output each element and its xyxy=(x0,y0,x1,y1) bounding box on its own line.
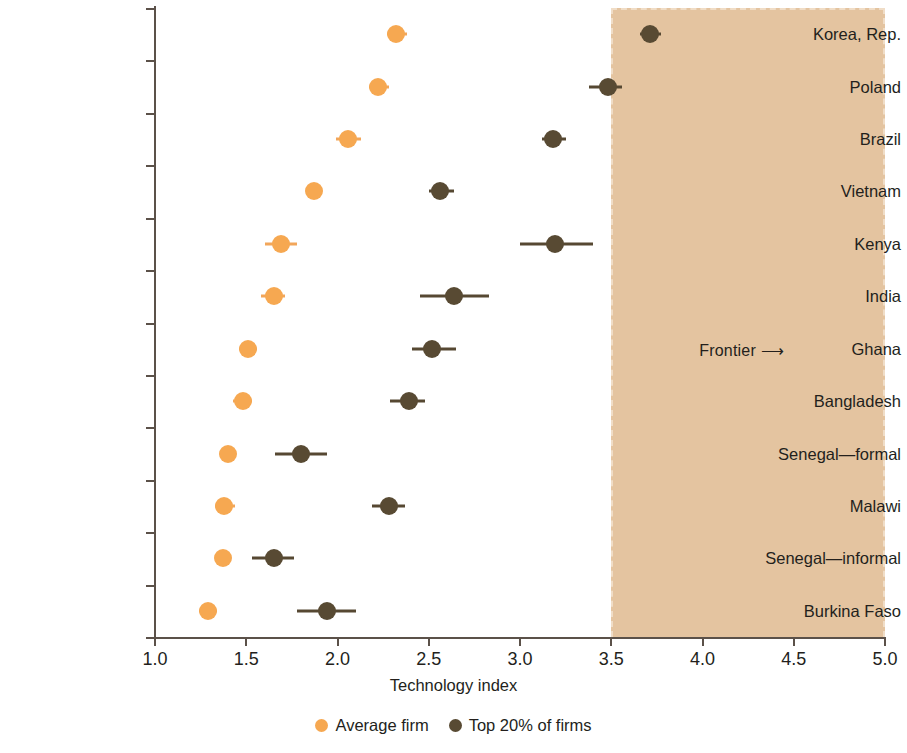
data-point xyxy=(369,78,387,96)
legend-dot-icon xyxy=(449,719,462,732)
data-point xyxy=(219,445,237,463)
data-point xyxy=(544,130,562,148)
x-axis-tick xyxy=(245,637,247,646)
data-point xyxy=(215,497,233,515)
data-point xyxy=(265,287,283,305)
y-axis-category-label: Senegal—informal xyxy=(759,549,907,568)
data-point xyxy=(214,549,232,567)
data-point xyxy=(305,182,323,200)
data-point xyxy=(423,340,441,358)
y-axis-category-label: Malawi xyxy=(759,496,907,515)
legend-item-label: Top 20% of firms xyxy=(469,716,592,735)
y-axis-tick xyxy=(146,218,155,220)
data-point xyxy=(641,25,659,43)
data-point xyxy=(445,287,463,305)
data-point xyxy=(431,182,449,200)
y-axis-tick xyxy=(146,60,155,62)
y-axis-tick xyxy=(146,8,155,10)
frontier-band xyxy=(611,8,885,637)
x-axis-tick xyxy=(154,637,156,646)
x-axis-tick xyxy=(428,637,430,646)
y-axis-category-label: Kenya xyxy=(759,234,907,253)
y-axis-tick xyxy=(146,270,155,272)
plot-area: Frontier ⟶ xyxy=(155,8,885,637)
y-axis-tick xyxy=(146,585,155,587)
data-point xyxy=(599,78,617,96)
chart-legend: Average firmTop 20% of firms xyxy=(0,716,907,735)
x-axis-tick xyxy=(337,637,339,646)
x-axis-tick-label: 3.5 xyxy=(599,649,624,670)
data-point xyxy=(400,392,418,410)
y-axis-tick xyxy=(146,165,155,167)
data-point xyxy=(265,549,283,567)
y-axis-category-label: India xyxy=(759,287,907,306)
data-point xyxy=(199,602,217,620)
y-axis-tick xyxy=(146,113,155,115)
x-axis-tick xyxy=(702,637,704,646)
legend-dot-icon xyxy=(315,719,328,732)
y-axis-category-label: Brazil xyxy=(759,130,907,149)
data-point xyxy=(380,497,398,515)
legend-item-label: Average firm xyxy=(335,716,428,735)
data-point xyxy=(272,235,290,253)
x-axis-tick-label: 4.5 xyxy=(781,649,806,670)
x-axis-title: Technology index xyxy=(0,676,907,695)
y-axis-tick xyxy=(146,532,155,534)
x-axis-tick-label: 2.5 xyxy=(416,649,441,670)
y-axis-tick xyxy=(146,427,155,429)
y-axis-category-label: Senegal—formal xyxy=(759,444,907,463)
x-axis-tick xyxy=(884,637,886,646)
y-axis-tick xyxy=(146,375,155,377)
legend-item: Top 20% of firms xyxy=(449,716,592,735)
data-point xyxy=(546,235,564,253)
y-axis-category-label: Korea, Rep. xyxy=(759,25,907,44)
data-point xyxy=(234,392,252,410)
y-axis-category-label: Burkina Faso xyxy=(759,601,907,620)
data-point xyxy=(387,25,405,43)
y-axis-category-label: Bangladesh xyxy=(759,392,907,411)
y-axis-tick xyxy=(146,480,155,482)
x-axis-tick-label: 1.5 xyxy=(234,649,259,670)
x-axis-tick-label: 5.0 xyxy=(872,649,897,670)
y-axis-category-label: Vietnam xyxy=(759,182,907,201)
x-axis-tick-label: 2.0 xyxy=(325,649,350,670)
x-axis-tick-label: 3.0 xyxy=(507,649,532,670)
data-point xyxy=(318,602,336,620)
x-axis-tick-label: 4.0 xyxy=(690,649,715,670)
data-point xyxy=(239,340,257,358)
x-axis-tick-label: 1.0 xyxy=(142,649,167,670)
x-axis-tick xyxy=(793,637,795,646)
x-axis-tick xyxy=(519,637,521,646)
data-point xyxy=(292,445,310,463)
data-point xyxy=(339,130,357,148)
x-axis-tick xyxy=(610,637,612,646)
y-axis-category-label: Poland xyxy=(759,77,907,96)
y-axis-tick xyxy=(146,323,155,325)
technology-index-dot-plot: Frontier ⟶ Korea, Rep.PolandBrazilVietna… xyxy=(0,0,907,753)
legend-item: Average firm xyxy=(315,716,428,735)
y-axis-category-label: Ghana xyxy=(759,339,907,358)
